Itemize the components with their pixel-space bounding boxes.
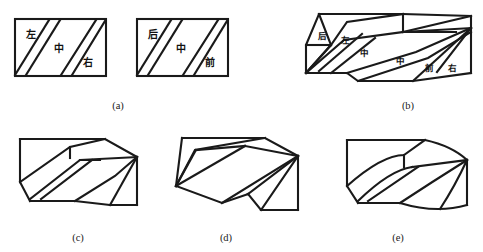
- panel-e-block: [347, 140, 467, 209]
- label-hou-a: 后: [148, 28, 158, 40]
- caption-d: (d): [220, 232, 233, 244]
- caption-b: (b): [402, 100, 415, 112]
- panel-d-block: [176, 138, 298, 210]
- panel-a-left-rectangle: 左 中 右: [15, 19, 106, 76]
- label-hou-b: 后: [318, 31, 327, 41]
- label-zhong-a: 中: [54, 42, 64, 54]
- label-zuo-b: 左: [340, 35, 350, 45]
- panel-b-block: 后 左 中 中 前 右: [306, 14, 471, 81]
- caption-e: (e): [392, 232, 404, 244]
- caption-c: (c): [72, 232, 84, 244]
- label-you-a: 右: [82, 56, 93, 68]
- panel-a-right-rectangle: 后 中 前: [137, 19, 228, 76]
- panel-c-block: [20, 139, 137, 205]
- geometry-figure-svg: 左 中 右 后 中 前 (a): [0, 0, 483, 252]
- caption-a: (a): [112, 100, 124, 112]
- figure-root: 左 中 右 后 中 前 (a): [0, 0, 483, 252]
- label-zhong-b1: 中: [360, 48, 369, 58]
- label-qian-b: 前: [425, 63, 434, 73]
- label-zuo-a: 左: [25, 28, 36, 40]
- label-you-b: 右: [447, 63, 457, 73]
- label-qian-a: 前: [205, 56, 215, 68]
- label-zhong-b2: 中: [396, 56, 405, 66]
- label-zhong-a2: 中: [176, 42, 186, 54]
